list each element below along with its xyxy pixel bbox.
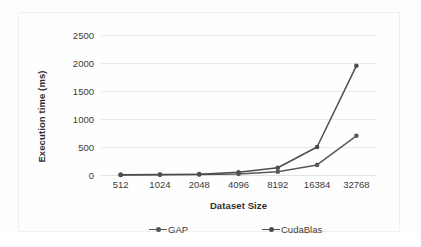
chart-screenshot: Execution time (ms) 05001000150020002500…: [0, 0, 421, 247]
x-axis-tick-labels: 51210242048409681921638432768: [101, 179, 376, 193]
y-axis-tick-label: 500: [78, 142, 94, 153]
data-point: [315, 145, 320, 150]
x-axis-tick-label: 32768: [343, 179, 369, 190]
page-edge: [0, 234, 421, 247]
legend-marker-icon: [262, 224, 280, 234]
legend-marker-icon: [149, 224, 167, 234]
x-axis-tick-label: 512: [113, 179, 129, 190]
y-axis-tick-label: 0: [89, 170, 94, 181]
y-axis-tick-label: 2500: [73, 30, 94, 41]
y-axis-tick-label: 2000: [73, 58, 94, 69]
data-point: [118, 173, 123, 178]
x-axis-tick-label: 16384: [304, 179, 330, 190]
data-point: [275, 169, 280, 174]
x-axis-tick-label: 4096: [228, 179, 249, 190]
series-line: [121, 136, 357, 175]
x-axis-tick-label: 2048: [189, 179, 210, 190]
legend-label: GAP: [168, 224, 188, 235]
x-axis-tick-label: 1024: [149, 179, 170, 190]
x-axis-title: Dataset Size: [101, 200, 376, 211]
data-point: [158, 172, 163, 177]
data-point: [236, 170, 241, 175]
series-lines: [101, 35, 376, 175]
data-point: [275, 165, 280, 170]
series-line: [121, 66, 357, 175]
data-point: [315, 163, 320, 168]
y-axis-tick-label: 1000: [73, 114, 94, 125]
y-axis-title: Execution time (ms): [36, 57, 47, 177]
plot-area: 05001000150020002500: [101, 35, 376, 175]
data-point: [197, 172, 202, 177]
x-axis-tick-label: 8192: [267, 179, 288, 190]
data-point: [354, 64, 359, 69]
legend-label: CudaBlas: [281, 224, 322, 235]
y-axis-tick-label: 1500: [73, 86, 94, 97]
chart-frame: Execution time (ms) 05001000150020002500…: [18, 12, 400, 232]
data-point: [354, 134, 359, 139]
